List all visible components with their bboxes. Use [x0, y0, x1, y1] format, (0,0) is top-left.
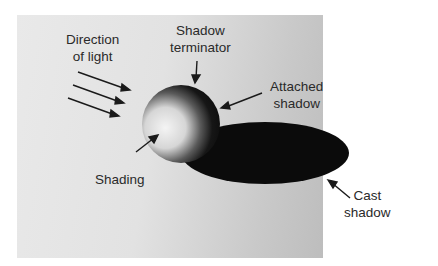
light-direction-arrows-icon — [68, 72, 130, 117]
sphere — [142, 85, 220, 163]
label-shadow-terminator: Shadow terminator — [170, 22, 231, 56]
attached-shadow-arrow-icon — [226, 93, 262, 107]
label-attached-shadow: Attached shadow — [270, 78, 323, 112]
label-shading: Shading — [95, 171, 145, 188]
label-direction-of-light: Direction of light — [66, 31, 119, 65]
label-cast-shadow: Cast shadow — [344, 187, 391, 221]
